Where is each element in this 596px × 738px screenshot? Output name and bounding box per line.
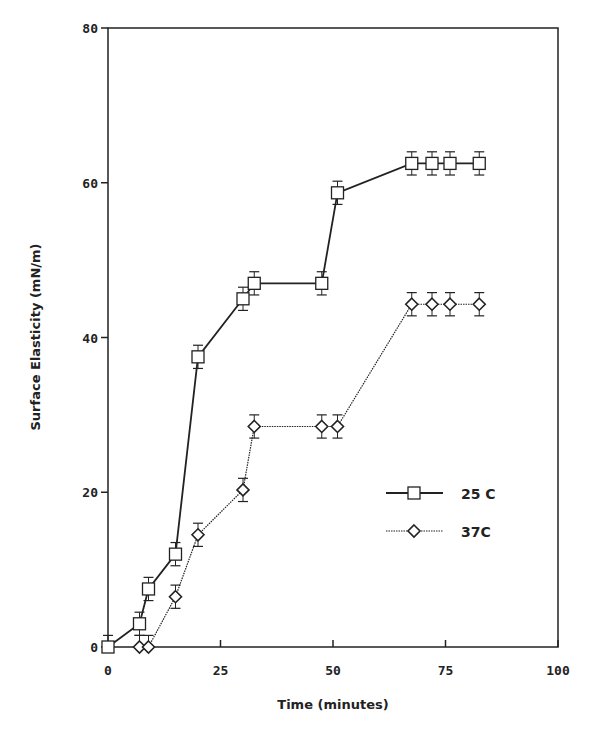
diamond-marker-icon [332,420,344,432]
square-marker-icon [170,548,182,560]
y-tick-label: 40 [82,331,98,346]
diamond-marker-icon [170,591,182,603]
legend: 25 C37C [386,486,496,540]
x-tick-label: 75 [438,663,454,678]
series-25c [102,152,485,653]
y-tick-label: 0 [90,640,98,655]
square-marker-icon [473,157,485,169]
legend-label: 37C [461,524,491,540]
square-marker-icon [332,187,344,199]
square-marker-icon [408,487,420,499]
x-tick-label: 50 [325,663,341,678]
diamond-marker-icon [316,420,328,432]
legend-item: 25 C [386,486,496,502]
square-marker-icon [102,641,114,653]
square-marker-icon [134,618,146,630]
x-tick-label: 100 [546,663,570,678]
legend-label: 25 C [461,486,496,502]
square-marker-icon [237,293,249,305]
square-marker-icon [426,157,438,169]
series-line [140,304,480,647]
series-layer [102,152,485,653]
diamond-marker-icon [248,420,260,432]
diamond-marker-icon [444,298,456,310]
square-marker-icon [192,351,204,363]
diamond-marker-icon [473,298,485,310]
diamond-marker-icon [426,298,438,310]
y-tick-label: 60 [82,176,98,191]
square-marker-icon [406,157,418,169]
chart-canvas: 0204060800255075100 25 C37C Time (minute… [0,0,596,738]
diamond-marker-icon [408,525,420,537]
diamond-marker-icon [237,484,249,496]
square-marker-icon [143,583,155,595]
series-line [108,163,479,647]
x-tick-label: 0 [104,663,112,678]
square-marker-icon [444,157,456,169]
diamond-marker-icon [143,641,155,653]
diamond-marker-icon [406,298,418,310]
x-axis-title: Time (minutes) [277,697,388,712]
x-tick-label: 25 [213,663,229,678]
square-marker-icon [248,277,260,289]
series-37c [134,293,486,653]
y-tick-label: 20 [82,485,98,500]
y-axis-title: Surface Elasticity (mN/m) [28,243,43,430]
legend-item: 37C [386,524,491,540]
y-tick-label: 80 [82,21,98,36]
square-marker-icon [316,277,328,289]
